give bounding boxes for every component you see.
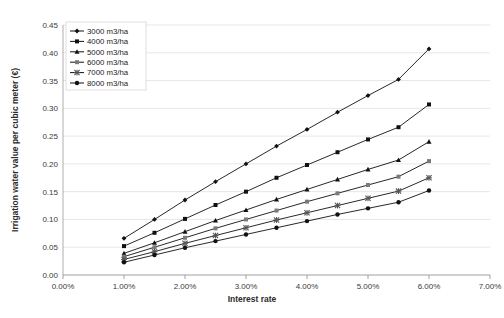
data-point-marker xyxy=(122,236,127,241)
x-axis-tick-label: 2.00% xyxy=(174,282,197,291)
data-point-marker xyxy=(335,110,340,115)
data-point-marker xyxy=(305,127,310,132)
y-axis-tick-label: 0.05 xyxy=(42,243,58,252)
y-axis-tick-label: 0.25 xyxy=(42,132,58,141)
legend-marker-icon xyxy=(75,39,79,43)
data-point-marker xyxy=(336,150,340,154)
line-chart: 0.000.050.100.150.200.250.300.350.400.45… xyxy=(0,0,504,318)
data-point-marker xyxy=(427,139,432,144)
x-axis-title: Interest rate xyxy=(228,294,277,304)
data-point-marker xyxy=(183,236,187,240)
y-axis-tick-label: 0.00 xyxy=(42,271,58,280)
chart-legend: 3000 m3/ha4000 m3/ha5000 m3/ha6000 m3/ha… xyxy=(66,22,146,90)
y-axis-tick-label: 0.30 xyxy=(42,104,58,113)
x-axis-tick-label: 3.00% xyxy=(235,282,258,291)
data-point-marker xyxy=(396,157,401,162)
data-series xyxy=(121,175,432,262)
legend-item-label: 3000 m3/ha xyxy=(87,27,129,36)
data-point-marker xyxy=(305,200,309,204)
y-axis-tick-label: 0.35 xyxy=(42,77,58,86)
chart-container: 0.000.050.100.150.200.250.300.350.400.45… xyxy=(0,0,504,318)
data-point-marker xyxy=(396,200,400,204)
data-point-marker xyxy=(396,188,402,194)
data-point-marker xyxy=(213,233,219,239)
legend-item-label: 8000 m3/ha xyxy=(87,79,129,88)
data-point-marker xyxy=(213,239,217,243)
data-point-marker xyxy=(213,179,218,184)
data-point-marker xyxy=(244,217,248,221)
data-point-marker xyxy=(152,253,156,257)
data-point-marker xyxy=(427,159,431,163)
x-axis-tick-label: 5.00% xyxy=(357,282,380,291)
data-point-marker xyxy=(214,203,218,207)
y-axis-tick-label: 0.20 xyxy=(42,160,58,169)
legend-item-label: 7000 m3/ha xyxy=(87,68,129,77)
data-point-marker xyxy=(365,195,371,201)
series-line xyxy=(124,104,429,246)
legend-item-label: 5000 m3/ha xyxy=(87,48,129,57)
data-point-marker xyxy=(182,240,188,246)
data-point-marker xyxy=(152,217,157,222)
data-point-marker xyxy=(244,161,249,166)
data-point-marker xyxy=(397,125,401,129)
x-axis-tick-label: 6.00% xyxy=(418,282,441,291)
data-point-marker xyxy=(183,217,187,221)
y-axis-tick-label: 0.45 xyxy=(42,21,58,30)
data-point-marker xyxy=(183,198,188,203)
legend-marker-icon xyxy=(75,60,79,64)
data-series xyxy=(122,159,431,259)
legend-marker-icon xyxy=(74,70,80,76)
data-point-marker xyxy=(366,206,370,210)
y-axis-tick-labels: 0.000.050.100.150.200.250.300.350.400.45 xyxy=(42,21,58,280)
y-axis-title: Irrigation water value per cubic meter (… xyxy=(10,68,20,232)
data-point-marker xyxy=(274,144,279,149)
data-point-marker xyxy=(275,176,279,180)
data-point-marker xyxy=(243,225,249,231)
legend-item-label: 6000 m3/ha xyxy=(87,58,129,67)
y-axis-tick-label: 0.10 xyxy=(42,215,58,224)
x-axis-tick-labels: 0.00%1.00%2.00%3.00%4.00%5.00%6.00%7.00% xyxy=(52,282,502,291)
y-axis-tick-label: 0.40 xyxy=(42,49,58,58)
legend-marker-icon xyxy=(75,81,79,85)
data-point-marker xyxy=(244,232,248,236)
x-axis-tick-label: 4.00% xyxy=(296,282,319,291)
legend-item-label: 4000 m3/ha xyxy=(87,37,129,46)
data-point-marker xyxy=(122,260,126,264)
data-point-marker xyxy=(366,183,370,187)
data-point-marker xyxy=(366,93,371,98)
data-point-marker xyxy=(153,231,157,235)
data-series xyxy=(122,139,432,255)
data-point-marker xyxy=(274,217,280,223)
data-point-marker xyxy=(244,190,248,194)
data-point-marker xyxy=(336,191,340,195)
x-axis-tick-label: 1.00% xyxy=(113,282,136,291)
data-point-marker xyxy=(366,137,370,141)
data-point-marker xyxy=(275,209,279,213)
data-point-marker xyxy=(214,226,218,230)
y-axis-tick-label: 0.15 xyxy=(42,188,58,197)
data-point-marker xyxy=(305,219,309,223)
data-point-marker xyxy=(427,188,431,192)
data-point-marker xyxy=(427,102,431,106)
data-point-marker xyxy=(305,163,309,167)
data-point-marker xyxy=(304,210,310,216)
x-axis-tick-label: 7.00% xyxy=(479,282,502,291)
data-point-marker xyxy=(183,246,187,250)
data-series-group xyxy=(121,46,432,264)
data-point-marker xyxy=(397,175,401,179)
data-point-marker xyxy=(274,226,278,230)
data-point-marker xyxy=(335,203,341,209)
data-point-marker xyxy=(335,212,339,216)
data-point-marker xyxy=(426,175,432,181)
data-point-marker xyxy=(122,244,126,248)
x-axis-tick-label: 0.00% xyxy=(52,282,75,291)
data-point-marker xyxy=(153,245,157,249)
